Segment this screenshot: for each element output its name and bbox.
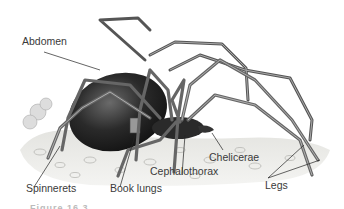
- figure-caption: Figure 16.3: [30, 203, 89, 209]
- label-book-lungs: Book lungs: [110, 183, 162, 194]
- spider-diagram: Abdomen Chelicerae Cephalothorax Spinner…: [0, 0, 344, 209]
- chelicerae-shape: [198, 126, 214, 133]
- label-cephalothorax: Cephalothorax: [150, 166, 218, 177]
- label-spinnerets: Spinnerets: [26, 183, 76, 194]
- label-abdomen: Abdomen: [22, 36, 67, 47]
- label-chelicerae: Chelicerae: [209, 152, 259, 163]
- label-legs: Legs: [265, 180, 288, 191]
- spider-illustration: [0, 0, 344, 209]
